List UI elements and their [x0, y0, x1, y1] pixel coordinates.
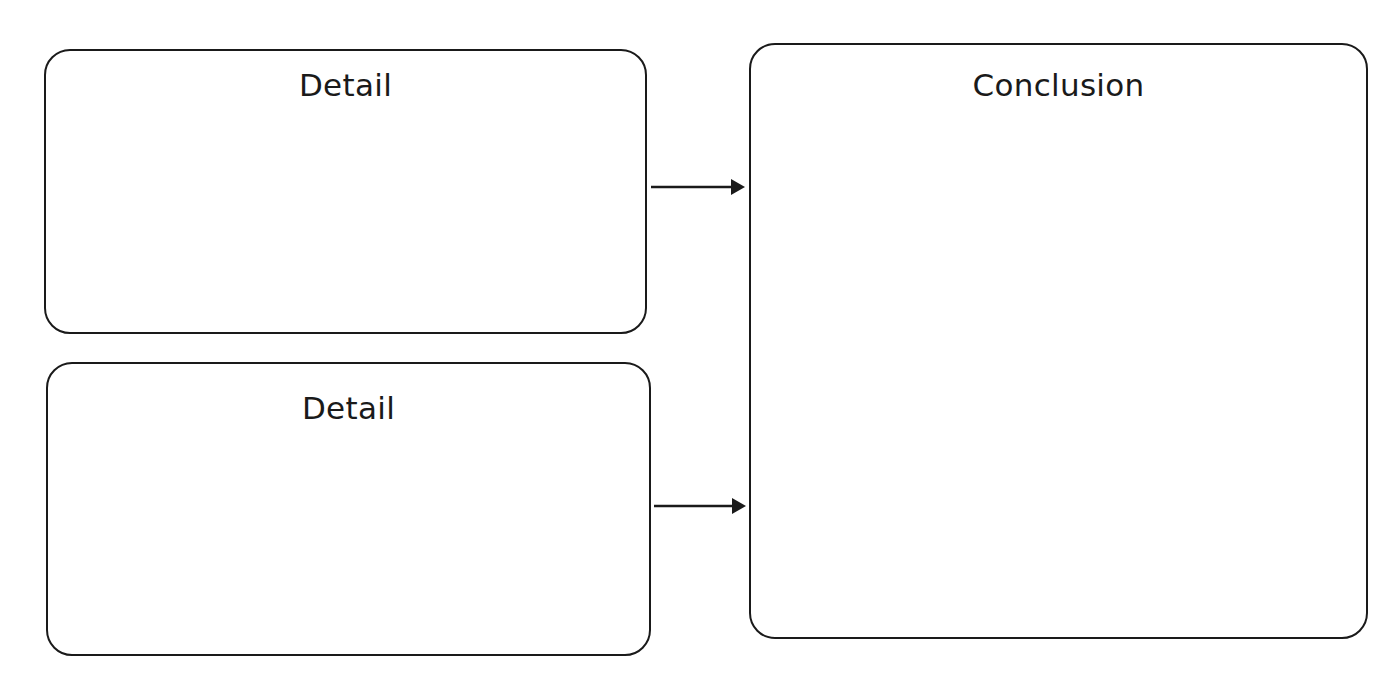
detail-box-2: Detail	[46, 362, 651, 656]
arrowhead-icon	[732, 498, 746, 514]
conclusion-box-title: Conclusion	[751, 67, 1366, 103]
arrow-detail-2-to-conclusion	[654, 498, 746, 514]
detail-box-1-title: Detail	[46, 67, 645, 103]
arrow-detail-1-to-conclusion	[651, 179, 745, 195]
arrowhead-icon	[731, 179, 745, 195]
conclusion-box: Conclusion	[749, 43, 1368, 639]
detail-box-1: Detail	[44, 49, 647, 334]
detail-box-2-title: Detail	[48, 390, 649, 426]
